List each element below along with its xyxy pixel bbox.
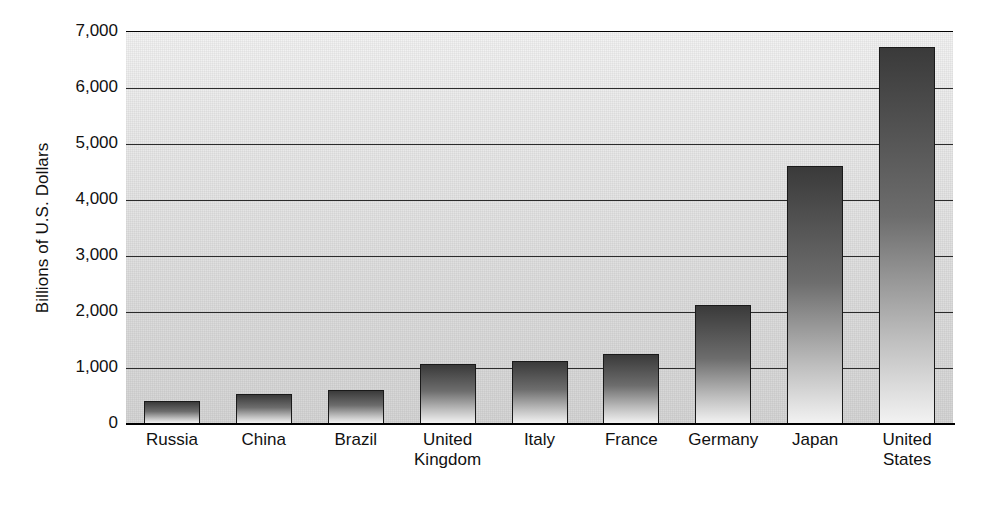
x-axis-tick-label-line: United xyxy=(861,430,953,450)
x-axis-tick-label-line: Brazil xyxy=(310,430,402,450)
bar xyxy=(787,166,843,424)
y-axis-tick-label: 6,000 xyxy=(38,77,118,97)
y-axis-tick-label: 5,000 xyxy=(38,133,118,153)
bar xyxy=(236,394,292,424)
y-axis-tick-label: 2,000 xyxy=(38,301,118,321)
bar-fill xyxy=(421,365,475,423)
y-axis-tick-label: 0 xyxy=(38,413,118,433)
x-axis-tick-label-line: Japan xyxy=(769,430,861,450)
bar-fill xyxy=(604,355,658,423)
x-axis-tick-label: Russia xyxy=(126,430,218,450)
x-axis-tick-label: Germany xyxy=(677,430,769,450)
bar xyxy=(144,401,200,424)
x-axis-tick-label: UnitedStates xyxy=(861,430,953,470)
x-axis-baseline xyxy=(126,423,955,425)
bar-fill xyxy=(329,391,383,423)
gridline xyxy=(126,88,953,89)
x-axis-tick-label: Brazil xyxy=(310,430,402,450)
x-axis-tick-label-line: United xyxy=(402,430,494,450)
x-axis-tick-label: China xyxy=(218,430,310,450)
y-axis-tick-label: 3,000 xyxy=(38,245,118,265)
x-axis-tick-label-line: France xyxy=(585,430,677,450)
x-axis-tick-label-line: China xyxy=(218,430,310,450)
bar-fill xyxy=(788,167,842,423)
y-axis-tick-label: 1,000 xyxy=(38,357,118,377)
x-axis-tick-label-line: States xyxy=(861,450,953,470)
x-axis-tick-label: France xyxy=(585,430,677,450)
x-axis-tick-label-line: Italy xyxy=(494,430,586,450)
bar xyxy=(695,305,751,424)
bar xyxy=(420,364,476,424)
bar-fill xyxy=(145,402,199,423)
x-axis-tick-label: Italy xyxy=(494,430,586,450)
y-axis-tick-label: 7,000 xyxy=(38,21,118,41)
x-axis-tick-label-line: Germany xyxy=(677,430,769,450)
x-axis-tick-label: UnitedKingdom xyxy=(402,430,494,470)
bar xyxy=(603,354,659,424)
bar-fill xyxy=(513,362,567,423)
bar-fill xyxy=(696,306,750,423)
bar xyxy=(879,47,935,424)
bar-fill xyxy=(880,48,934,423)
y-axis-tick-label: 4,000 xyxy=(38,189,118,209)
gridline xyxy=(126,144,953,145)
bar xyxy=(328,390,384,424)
x-axis-tick-label: Japan xyxy=(769,430,861,450)
plot-area xyxy=(126,31,953,424)
x-axis-tick-label-line: Kingdom xyxy=(402,450,494,470)
bar-fill xyxy=(237,395,291,423)
bar-chart: Billions of U.S. Dollars 01,0002,0003,00… xyxy=(0,0,985,510)
x-axis-tick-label-line: Russia xyxy=(126,430,218,450)
y-axis-tick-labels: 01,0002,0003,0004,0005,0006,0007,000 xyxy=(30,0,118,510)
bar xyxy=(512,361,568,424)
